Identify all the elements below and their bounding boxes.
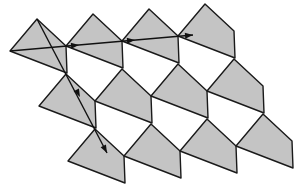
tile: [39, 74, 96, 128]
tile: [10, 19, 67, 73]
tile: [122, 9, 179, 63]
tile-group: [10, 4, 293, 183]
tiling-diagram: [0, 0, 302, 188]
tile: [207, 59, 264, 113]
tiling-svg: [0, 0, 302, 188]
tile: [236, 114, 293, 168]
tile: [68, 129, 125, 183]
tile: [151, 64, 208, 118]
tile: [180, 119, 237, 173]
tile: [95, 69, 152, 123]
tile: [178, 4, 235, 58]
tile: [124, 124, 181, 178]
tile: [66, 14, 123, 68]
